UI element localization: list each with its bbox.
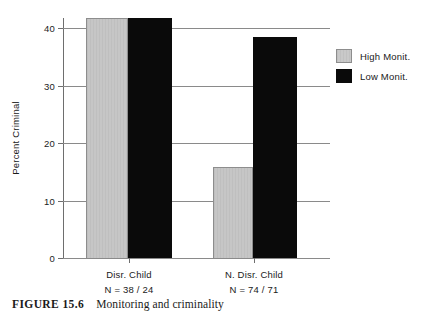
bar-high-monit-n-disr-child (213, 167, 253, 258)
y-tick-label-20: 20 (44, 138, 55, 149)
legend-label-low-monit: Low Monit. (360, 71, 408, 82)
y-tick-0 (58, 258, 63, 259)
legend-label-high-monit: High Monit. (360, 51, 410, 62)
gridline-0 (63, 258, 330, 259)
y-axis-title: Percent Criminal (10, 101, 21, 174)
figure-caption: FIGURE 15.6Monitoring and criminality (12, 298, 224, 310)
bar-high-monit-disr-child (86, 18, 128, 258)
bar-low-monit-n-disr-child (253, 37, 297, 258)
legend-swatch-low-monit-icon (336, 69, 352, 83)
legend-item-high-monit: High Monit. (336, 46, 410, 66)
x-category-n-0: N = 38 / 24 (79, 282, 179, 297)
legend-item-low-monit: Low Monit. (336, 66, 410, 86)
y-tick-40 (58, 28, 63, 29)
y-tick-label-30: 30 (44, 80, 55, 91)
x-category-n-disr-child: N. Disr. Child N = 74 / 71 (204, 267, 304, 297)
legend-swatch-high-monit-icon (336, 49, 352, 63)
x-tick-n-disr-child (254, 258, 255, 263)
y-tick-label-0: 0 (50, 253, 55, 264)
x-category-disr-child: Disr. Child N = 38 / 24 (79, 267, 179, 297)
figure-number: FIGURE 15.6 (12, 298, 84, 310)
y-tick-20 (58, 143, 63, 144)
x-category-label-1: N. Disr. Child (225, 269, 283, 280)
figure-container: 0 10 20 30 40 Percent Criminal Disr. Chi… (0, 0, 427, 320)
x-tick-disr-child (129, 258, 130, 263)
y-tick-10 (58, 201, 63, 202)
x-category-label-0: Disr. Child (106, 269, 152, 280)
plot-area: 0 10 20 30 40 Percent Criminal Disr. Chi… (63, 18, 330, 259)
x-category-n-1: N = 74 / 71 (204, 282, 304, 297)
y-tick-label-40: 40 (44, 23, 55, 34)
figure-caption-text: Monitoring and criminality (96, 298, 224, 310)
bar-low-monit-disr-child (128, 18, 172, 258)
legend: High Monit. Low Monit. (336, 46, 410, 86)
y-tick-30 (58, 86, 63, 87)
y-tick-label-10: 10 (44, 195, 55, 206)
y-axis-line (63, 18, 64, 259)
